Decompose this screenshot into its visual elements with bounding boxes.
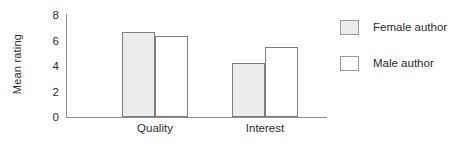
legend-item-male-author: Male author: [340, 54, 463, 72]
legend-swatch-male-icon: [340, 56, 359, 71]
x-tick-label-interest: Interest: [246, 122, 284, 134]
y-tick-label-4: 4: [53, 60, 59, 72]
bar-quality-female: [122, 32, 155, 117]
y-tick-label-6: 6: [53, 35, 59, 47]
legend-label-female-author: Female author: [373, 21, 447, 33]
bar-quality-male: [155, 36, 188, 117]
y-axis-line: [66, 14, 67, 118]
bar-interest-male: [265, 47, 298, 117]
bar-interest-female: [232, 63, 265, 117]
chart-legend: Female author Male author: [340, 18, 463, 90]
y-tick-label-0: 0: [53, 111, 59, 123]
y-tick-label-8: 8: [53, 9, 59, 21]
y-axis-label: Mean rating: [11, 9, 23, 119]
legend-item-female-author: Female author: [340, 18, 463, 36]
plot-area: 8 6 4 2 0 Quality Interest: [66, 14, 327, 118]
x-tick-label-quality: Quality: [137, 122, 173, 134]
bar-chart-figure: Mean rating 8 6 4 2 0 Quality Interest F…: [0, 0, 463, 153]
legend-label-male-author: Male author: [373, 57, 434, 69]
y-tick-label-2: 2: [53, 86, 59, 98]
legend-swatch-female-icon: [340, 20, 359, 35]
x-axis-line: [66, 117, 327, 118]
